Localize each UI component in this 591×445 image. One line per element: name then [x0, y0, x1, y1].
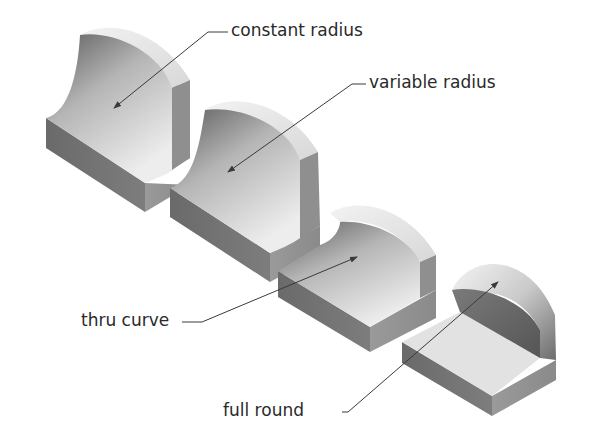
label-constant-radius: constant radius — [231, 22, 363, 39]
round-types-diagram: constant radius variable radius thru cur… — [0, 0, 591, 445]
part-constant-radius — [46, 28, 190, 212]
label-full-round: full round — [223, 402, 304, 419]
part-variable-radius — [170, 101, 320, 282]
parts-illustration — [0, 0, 591, 445]
label-variable-radius: variable radius — [369, 74, 496, 91]
label-thru-curve: thru curve — [81, 312, 169, 329]
